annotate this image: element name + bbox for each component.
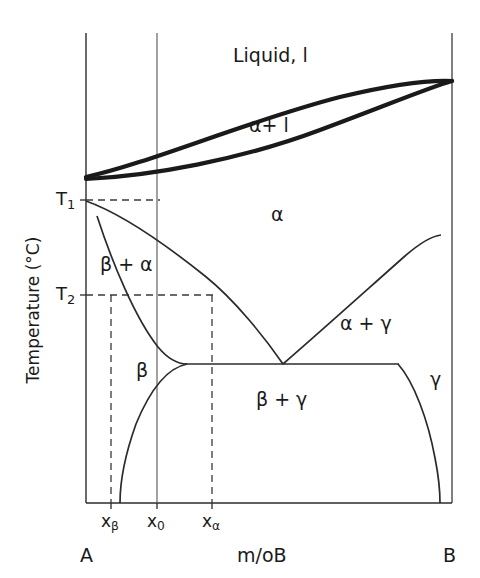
x-tick-x-zero-subscript: 0 (157, 519, 165, 533)
x-tick-label-x-alpha: xα (202, 513, 220, 533)
alpha-solvus-curve (86, 201, 283, 364)
x-tick-label-x-zero: x0 (147, 513, 165, 533)
x-tick-x-alpha-base: x (202, 511, 212, 531)
x-tick-x-zero-base: x (147, 511, 157, 531)
x-axis-endmember-b: B (443, 546, 456, 565)
x-tick-x-beta-base: x (101, 511, 111, 531)
y-tick-label-t2: T2 (56, 285, 75, 307)
region-label-beta: β (136, 361, 148, 380)
y-tick-t1-base: T (56, 188, 67, 209)
y-tick-t1-subscript: 1 (67, 197, 75, 212)
region-label-liquid: Liquid, l (233, 46, 308, 65)
region-label-alpha-plus-liquid: α+ l (249, 116, 289, 135)
beta-solvus-lower-curve (120, 364, 187, 503)
region-label-gamma: γ (430, 370, 441, 389)
x-axis-endmember-a: A (80, 546, 93, 565)
y-tick-label-t1: T1 (56, 190, 75, 212)
phase-diagram-figure: Temperature (°C) Liqui (0, 0, 480, 578)
x-tick-x-beta-subscript: β (111, 519, 119, 533)
y-tick-t2-subscript: 2 (67, 292, 75, 307)
x-tick-x-alpha-subscript: α (212, 519, 220, 533)
region-label-alpha-plus-gamma: α + γ (340, 314, 392, 333)
x-axis-label: m/oB (237, 546, 287, 565)
y-tick-t2-base: T (56, 283, 67, 304)
x-tick-label-x-beta: xβ (101, 513, 119, 533)
gamma-solvus-upper-curve (283, 235, 441, 364)
region-label-alpha: α (271, 205, 284, 224)
region-label-beta-plus-alpha: β + α (100, 255, 153, 274)
region-label-beta-plus-gamma: β + γ (256, 390, 307, 409)
beta-solvus-upper-curve (97, 216, 187, 364)
